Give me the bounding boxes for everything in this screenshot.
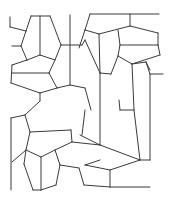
cell-edge [118,45,120,56]
cell-edge [118,30,120,45]
cell-edge [26,16,31,31]
voronoi-figure [0,0,171,202]
cell-edge [11,115,25,118]
cell-edge [82,40,85,45]
cell-edge [26,132,30,150]
cell-edge [55,150,60,165]
cell-edge [158,45,160,55]
cell-edge [55,45,61,60]
cell-edge [82,110,85,135]
cell-edge [110,160,140,170]
cell-edge [100,73,111,74]
cell-edge [85,14,90,30]
cell-edge [130,26,158,33]
cell-edge [56,165,60,185]
cell-edge [119,100,120,110]
cell-edge [12,150,26,162]
cell-edge [25,115,30,132]
cell-edge [21,31,26,46]
cell-edge [12,60,27,65]
cell-edge [85,88,91,110]
cell-edge [49,73,57,88]
cell-edge [85,160,100,165]
cell-edge [27,55,40,60]
cell-edge [71,130,72,142]
cell-edge [21,46,27,60]
cell-edge [85,40,100,73]
cell-edge [57,85,70,88]
cell-edge [99,26,130,34]
cell-edge [41,185,56,190]
cell-edge [79,168,84,185]
cell-edge [25,101,40,115]
cell-edge [41,150,55,157]
cell-edge [60,165,79,168]
cell-edge [111,56,118,74]
cell-edge [24,164,33,190]
cell-edge [55,142,72,150]
cell-edge [132,64,134,110]
cell-edge [50,16,61,45]
cell-edge [85,165,110,170]
cell-edge [70,85,85,88]
cell-edge [118,56,132,64]
cell-edge [99,34,100,73]
cell-edge [11,65,12,83]
cell-edge [84,185,110,187]
cell-edge [100,145,140,160]
cell-edge [30,130,71,132]
cell-edge [85,30,99,34]
cell-edge [40,88,57,93]
cell-edge [26,150,41,157]
cell-edge [49,60,55,73]
cell-edge [10,27,26,31]
cell-edge [134,110,140,160]
cell-edge [40,55,55,60]
cell-edge [11,83,40,93]
